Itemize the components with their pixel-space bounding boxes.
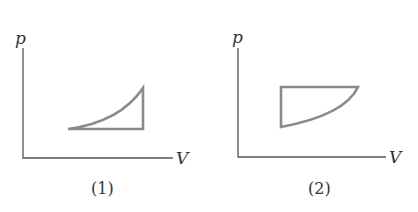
figure-1-caption: (1) bbox=[91, 179, 114, 198]
figure-2-x-axis-label: V bbox=[389, 147, 403, 167]
figure-2-y-axis-label: p bbox=[232, 27, 243, 47]
pv-diagrams: p V (1) p V (2) bbox=[0, 0, 418, 212]
figure-1-x-axis-label: V bbox=[176, 148, 190, 168]
figure-2-caption: (2) bbox=[308, 179, 331, 198]
figure-2: p V (2) bbox=[232, 27, 403, 198]
figure-2-cycle-path bbox=[281, 87, 358, 127]
figure-1-y-axis-label: p bbox=[15, 28, 26, 48]
figure-1: p V (1) bbox=[15, 28, 190, 198]
figure-1-axes bbox=[23, 48, 173, 158]
figure-1-cycle-path bbox=[68, 88, 143, 129]
figure-2-axes bbox=[238, 48, 386, 157]
